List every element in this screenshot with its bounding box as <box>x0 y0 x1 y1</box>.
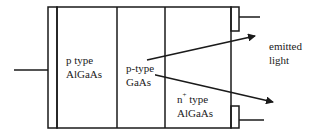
p-gaas-label: p-type GaAs <box>126 61 155 89</box>
emitted-light-label: emitted light <box>269 39 302 67</box>
diagram-canvas <box>0 0 319 136</box>
emitted-light-label-line2: light <box>269 53 302 67</box>
p-gaas-label-line1: p-type <box>126 61 154 75</box>
p-algaas-label: p type AlGaAs <box>66 53 102 81</box>
light-arrow-upper <box>147 36 255 60</box>
emitted-light-label-line1: emitted <box>269 39 302 53</box>
p-gaas-label-line2: GaAs <box>126 75 154 89</box>
p-algaas-label-line2: AlGaAs <box>66 67 102 81</box>
n-algaas-label-line2: AlGaAs <box>177 106 213 120</box>
top-right-contact <box>231 7 239 31</box>
n-algaas-label: n+ type AlGaAs <box>177 92 213 120</box>
left-contact-layer <box>48 7 57 128</box>
plus-superscript: + <box>183 91 187 99</box>
bottom-right-contact <box>231 106 239 128</box>
n-text: n <box>177 93 183 105</box>
p-algaas-label-line1: p type <box>66 53 102 67</box>
led-structure-diagram: p type AlGaAs p-type GaAs n+ type AlGaAs… <box>0 0 319 136</box>
n-algaas-label-line1: n+ type <box>177 92 213 106</box>
type-text: type <box>186 93 208 105</box>
